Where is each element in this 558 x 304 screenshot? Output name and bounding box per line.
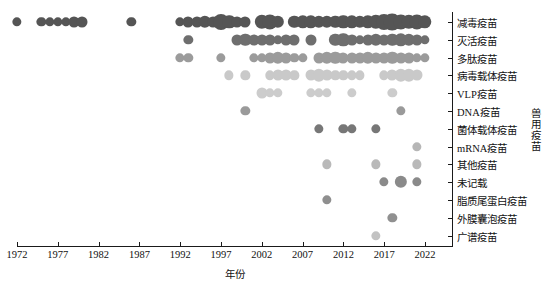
data-point bbox=[322, 89, 331, 98]
y-tick-1 bbox=[448, 40, 453, 41]
data-point bbox=[241, 106, 250, 115]
x-tick-label-1972: 1972 bbox=[7, 249, 28, 260]
y-tick-label-2: 多肽疫苗 bbox=[457, 50, 497, 65]
y-tick-10 bbox=[448, 200, 453, 201]
data-point bbox=[412, 142, 421, 151]
y-tick-label-12: 广谱疫苗 bbox=[457, 228, 497, 243]
data-point bbox=[305, 34, 316, 45]
data-point bbox=[322, 160, 331, 169]
x-tick-label-1997: 1997 bbox=[211, 249, 232, 260]
x-tick-2002 bbox=[262, 242, 263, 246]
data-point bbox=[77, 17, 88, 28]
data-point bbox=[347, 124, 356, 133]
y-tick-label-3: 病毒载体疫苗 bbox=[457, 68, 517, 83]
y-tick-label-8: 其他疫苗 bbox=[457, 157, 497, 172]
data-point bbox=[290, 71, 299, 80]
y-tick-label-6: 菌体载体疫苗 bbox=[457, 121, 517, 136]
data-point bbox=[12, 17, 21, 26]
data-point bbox=[396, 106, 405, 115]
data-point bbox=[273, 89, 282, 98]
y-tick-label-0: 减毒疫苗 bbox=[457, 15, 497, 30]
x-tick-2022 bbox=[425, 242, 426, 246]
x-tick-2017 bbox=[384, 242, 385, 246]
x-tick-1997 bbox=[221, 242, 222, 246]
bubble-chart-figure: 1972197719821987199219972002200720122017… bbox=[0, 0, 558, 304]
x-tick-label-2017: 2017 bbox=[374, 249, 395, 260]
y-tick-5 bbox=[448, 111, 453, 112]
x-tick-label-1987: 1987 bbox=[129, 249, 150, 260]
data-point bbox=[411, 70, 422, 81]
x-tick-1977 bbox=[58, 242, 59, 246]
data-point bbox=[241, 71, 250, 80]
y-tick-6 bbox=[448, 129, 453, 130]
data-point bbox=[272, 16, 284, 28]
data-point bbox=[394, 176, 406, 188]
y-tick-9 bbox=[448, 182, 453, 183]
x-tick-1992 bbox=[180, 242, 181, 246]
data-point bbox=[184, 53, 193, 62]
data-point bbox=[347, 89, 356, 98]
x-tick-1972 bbox=[17, 242, 18, 246]
data-point bbox=[371, 160, 380, 169]
x-axis-line bbox=[17, 246, 453, 247]
y-tick-2 bbox=[448, 58, 453, 59]
x-tick-label-2002: 2002 bbox=[251, 249, 272, 260]
x-tick-label-2022: 2022 bbox=[415, 249, 436, 260]
y-tick-label-11: 外膜囊泡疫苗 bbox=[457, 210, 517, 225]
data-point bbox=[388, 89, 397, 98]
y-tick-label-5: DNA疫苗 bbox=[457, 104, 500, 119]
y-tick-3 bbox=[448, 75, 453, 76]
y-tick-label-4: VLP疫苗 bbox=[457, 86, 497, 101]
y-tick-label-9: 未记载 bbox=[457, 175, 487, 190]
x-tick-2007 bbox=[303, 242, 304, 246]
data-point bbox=[418, 15, 431, 28]
data-point bbox=[355, 71, 364, 80]
x-tick-label-2012: 2012 bbox=[333, 249, 354, 260]
y-tick-4 bbox=[448, 93, 453, 94]
y-tick-8 bbox=[448, 164, 453, 165]
plot-area bbox=[17, 12, 452, 246]
x-tick-label-1977: 1977 bbox=[47, 249, 68, 260]
x-tick-1987 bbox=[139, 242, 140, 246]
data-point bbox=[371, 231, 380, 240]
data-point bbox=[298, 53, 307, 62]
data-point bbox=[388, 213, 397, 222]
data-point bbox=[216, 53, 225, 62]
x-tick-2012 bbox=[343, 242, 344, 246]
data-point bbox=[420, 35, 429, 44]
data-point bbox=[412, 160, 421, 169]
data-point bbox=[184, 35, 193, 44]
data-point bbox=[314, 124, 323, 133]
y-tick-label-1: 灭活疫苗 bbox=[457, 32, 497, 47]
x-tick-label-1992: 1992 bbox=[170, 249, 191, 260]
y-tick-label-7: mRNA疫苗 bbox=[457, 139, 507, 154]
data-point bbox=[127, 17, 136, 26]
data-point bbox=[289, 34, 300, 45]
y-tick-12 bbox=[448, 236, 453, 237]
y-axis-title: 兽用疫苗 bbox=[527, 108, 542, 152]
y-tick-0 bbox=[448, 22, 453, 23]
data-point bbox=[225, 71, 234, 80]
data-point bbox=[420, 53, 429, 62]
data-point bbox=[371, 124, 380, 133]
data-point bbox=[412, 178, 421, 187]
data-point bbox=[322, 195, 331, 204]
x-tick-label-2007: 2007 bbox=[292, 249, 313, 260]
x-tick-label-1982: 1982 bbox=[88, 249, 109, 260]
data-point bbox=[380, 178, 389, 187]
y-tick-11 bbox=[448, 218, 453, 219]
x-axis-title: 年份 bbox=[225, 266, 245, 281]
x-tick-1982 bbox=[99, 242, 100, 246]
data-point bbox=[240, 17, 251, 28]
y-tick-7 bbox=[448, 147, 453, 148]
y-tick-label-10: 脂质尾蛋白疫苗 bbox=[457, 193, 527, 208]
